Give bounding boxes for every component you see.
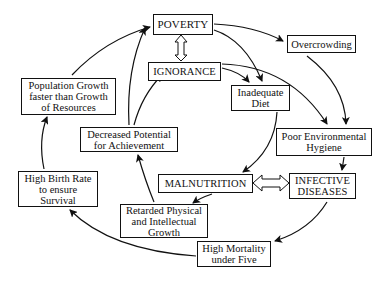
node-overcrowding: Overcrowding <box>287 35 356 53</box>
double-arrow-malnutrition-infective <box>253 175 289 191</box>
arrow-poverty-overcrowding <box>214 24 283 41</box>
arrow-birthrate-population <box>42 117 47 169</box>
node-high-mortality: High Mortality under Five <box>197 241 271 267</box>
node-high-birth-rate: High Birth Rate to ensure Survival <box>18 171 98 207</box>
node-poor-environmental-hygiene: Poor Environmental Hygiene <box>276 128 372 156</box>
arrow-retarded-decreased <box>138 155 154 202</box>
arrow-overcrowding-hygiene <box>307 56 346 124</box>
arrow-population-poverty <box>72 27 150 75</box>
node-infective-diseases: INFECTIVE DISEASES <box>289 173 356 199</box>
node-decreased-potential: Decreased Potential for Achievement <box>80 127 178 152</box>
arrow-malnutrition-retarded <box>193 194 212 203</box>
node-population-growth: Population Growth faster than Growth of … <box>21 78 116 115</box>
arrow-decreased-ignorance <box>134 75 162 125</box>
arrow-diet-malnutrition <box>243 112 277 172</box>
arrow-hygiene-infective <box>342 157 344 170</box>
node-ignorance: IGNORANCE <box>148 62 221 81</box>
double-arrow-poverty-ignorance <box>175 35 187 61</box>
node-inadequate-diet: Inadequate Diet <box>231 85 290 111</box>
node-malnutrition: MALNUTRITION <box>158 174 253 193</box>
arrow-decreased-poverty <box>129 28 145 125</box>
arrow-infective-mortality <box>275 202 327 241</box>
node-retarded-growth: Retarded Physical and Intellectual Growt… <box>120 204 208 238</box>
node-poverty: POVERTY <box>153 14 213 35</box>
arrow-ignorance-diet <box>222 68 249 82</box>
